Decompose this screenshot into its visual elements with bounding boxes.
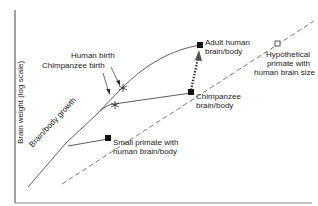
label-line: brain/body: [196, 101, 241, 110]
human-birth-label: Human birth: [71, 51, 115, 60]
label-line: Chimpanzee: [196, 92, 241, 101]
label-line: Hypothetical: [254, 50, 310, 59]
chimp-birth-asterisk-icon: [111, 101, 119, 109]
label-line: brain/body: [205, 47, 250, 56]
hypothetical-primate-label: Hypothetical primate with human brain si…: [254, 50, 310, 77]
chimp-marker: [188, 89, 194, 95]
y-axis-label: Brain weight (log scale): [16, 53, 25, 153]
chimp-growth-branch: [100, 93, 191, 111]
diagram-canvas: [0, 0, 318, 206]
label-line: primate with: [254, 59, 310, 68]
small-primate-branch: [68, 139, 108, 146]
label-line: human brain/body: [113, 147, 178, 156]
small-primate-label: Small primate with human brain/body: [113, 138, 178, 156]
arrow-head-icon: [195, 50, 202, 61]
small-primate-marker: [105, 135, 111, 141]
human-birth-asterisk-icon: [119, 84, 127, 92]
chimp-label: Chimpanzee brain/body: [196, 92, 241, 110]
label-line: Adult human: [205, 38, 250, 47]
label-line: Small primate with: [113, 138, 178, 147]
evolution-arrow: [191, 58, 198, 90]
chimp-birth-label: Chimpanzee birth: [42, 61, 105, 70]
pointer-head-icon: [116, 80, 120, 86]
label-line: human brain size: [254, 68, 310, 77]
adult-human-marker: [197, 42, 203, 48]
pointer-head-icon: [106, 89, 110, 95]
adult-human-label: Adult human brain/body: [205, 38, 250, 56]
hypothetical-primate-marker: [275, 41, 280, 46]
